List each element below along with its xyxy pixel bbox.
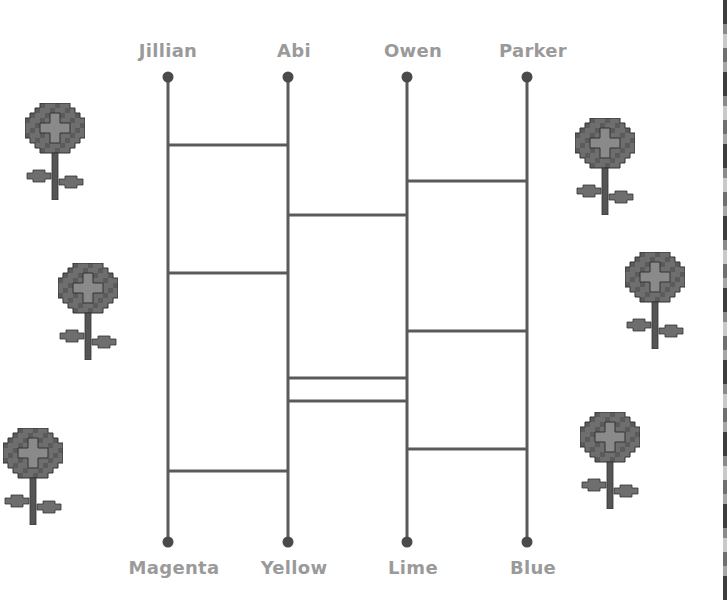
bottom-dot-abi [283, 537, 294, 548]
bottom-label-yellow: Yellow [261, 557, 328, 578]
top-label-abi: Abi [277, 40, 311, 61]
bottom-dot-owen [402, 537, 413, 548]
top-dot-parker [522, 72, 533, 83]
top-label-owen: Owen [384, 40, 442, 61]
flower-icon [580, 412, 640, 509]
bottom-dot-jillian [163, 537, 174, 548]
bottom-label-lime: Lime [388, 557, 438, 578]
flower-icon [25, 103, 85, 200]
flower-icon [575, 118, 635, 215]
bottom-dot-parker [522, 537, 533, 548]
top-dot-jillian [163, 72, 174, 83]
top-label-parker: Parker [499, 40, 567, 61]
flower-icon [3, 428, 63, 525]
edge-decoration-strip [723, 0, 727, 600]
flower-icon [58, 263, 118, 360]
bottom-label-blue: Blue [510, 557, 556, 578]
top-dot-abi [283, 72, 294, 83]
top-dot-owen [402, 72, 413, 83]
bottom-label-magenta: Magenta [129, 557, 220, 578]
ladder-puzzle-diagram: Jillian Abi Owen Parker Magenta Yellow L… [0, 0, 727, 600]
flower-icon [625, 252, 685, 349]
top-label-jillian: Jillian [139, 40, 197, 61]
